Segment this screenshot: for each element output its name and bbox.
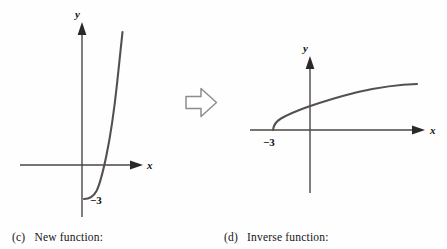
y-axis-arrowhead xyxy=(306,56,315,69)
x-intercept-tick-label: −3 xyxy=(263,136,275,148)
new-function-curve xyxy=(84,32,123,199)
y-axis-label: y xyxy=(73,8,80,20)
x-axis-label: x xyxy=(429,124,436,136)
caption-text-d: Inverse function: xyxy=(247,231,329,243)
panel-inverse-function: x y −3 xyxy=(224,0,447,224)
panel-new-function: x y −3 xyxy=(0,0,180,224)
graph-inverse-function: x y −3 xyxy=(224,0,447,224)
graph-new-function: x y −3 xyxy=(0,0,180,224)
y-intercept-tick-label: −3 xyxy=(90,194,102,206)
caption-text-c: New function: xyxy=(34,231,103,243)
caption-tag-d: (d) xyxy=(224,231,238,243)
transform-arrow xyxy=(183,84,221,122)
caption-tag-c: (c) xyxy=(12,231,25,243)
x-axis-label: x xyxy=(146,159,153,171)
y-axis-label: y xyxy=(301,42,308,54)
caption-new-function: (c)New function: xyxy=(12,231,103,243)
inverse-function-curve xyxy=(273,84,417,130)
x-axis-arrowhead xyxy=(412,126,425,135)
figure-root: x y −3 x xyxy=(0,0,447,249)
right-block-arrow-icon xyxy=(183,84,221,122)
x-axis-arrowhead xyxy=(130,161,143,170)
y-axis-arrowhead xyxy=(78,22,87,35)
caption-inverse-function: (d)Inverse function: xyxy=(224,231,329,243)
